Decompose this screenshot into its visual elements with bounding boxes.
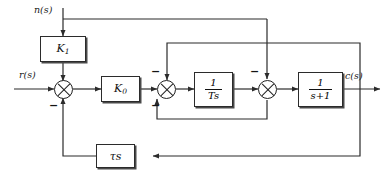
block-gain-k1-text: K1 — [57, 42, 70, 56]
block-integrator-one-over-ts[interactable]: 1 Ts — [194, 72, 233, 107]
wire-rate-to-sum1 — [63, 98, 96, 156]
block-gain-k0[interactable]: K0 — [101, 76, 140, 102]
block-rate-feedback-text: τs — [110, 150, 122, 163]
label-reference-r-of-s: r(s) — [19, 70, 36, 80]
summing-junction-1[interactable] — [54, 80, 73, 99]
label-disturbance-n-of-s: n(s) — [34, 5, 52, 15]
sign-sum2-bottom: − — [151, 100, 160, 111]
sign-sum3-top: − — [250, 66, 259, 77]
block-rate-feedback-tau-s[interactable]: τs — [96, 144, 135, 168]
label-output-c-of-s: c(s) — [345, 71, 363, 81]
fraction-one-over-ts: 1 Ts — [205, 78, 222, 101]
block-gain-k1[interactable]: K1 — [40, 36, 86, 62]
sign-sum1-bottom: − — [49, 100, 58, 111]
summing-junction-2[interactable] — [157, 80, 176, 99]
sign-sum2-top: − — [151, 66, 160, 77]
fraction-one-over-s-plus-one: 1 s+1 — [309, 78, 333, 101]
block-diagram-canvas: n(s) r(s) c(s) K1 K0 1 Ts 1 s+1 τs − − − — [0, 0, 387, 189]
block-gain-k0-text: K0 — [114, 82, 127, 96]
block-lag-one-over-s-plus-one[interactable]: 1 s+1 — [298, 72, 343, 107]
summing-junction-3[interactable] — [258, 80, 277, 99]
